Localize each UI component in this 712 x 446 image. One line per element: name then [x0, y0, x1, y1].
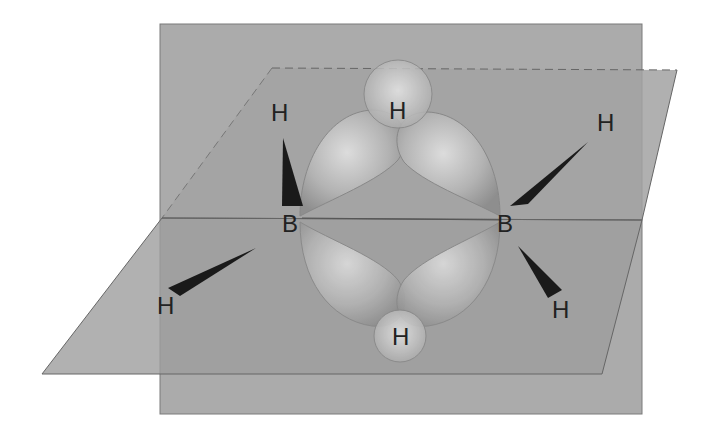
- label-boron-left: B: [282, 210, 298, 237]
- label-terminal-h-upper-left: H: [271, 99, 288, 126]
- label-bridge-h-bottom: H: [392, 323, 409, 350]
- label-boron-right: B: [497, 210, 513, 237]
- label-terminal-h-lower-left: H: [157, 292, 174, 319]
- diborane-diagram: B B H H H H H H: [0, 0, 712, 446]
- label-terminal-h-lower-right: H: [552, 296, 569, 323]
- label-bridge-h-top: H: [389, 97, 406, 124]
- label-terminal-h-upper-right: H: [597, 109, 614, 136]
